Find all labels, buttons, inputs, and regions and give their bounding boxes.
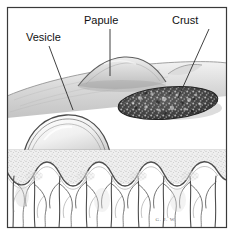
label-vesicle: Vesicle bbox=[26, 31, 61, 43]
artist-signature: G. J. W. bbox=[156, 217, 177, 222]
skin-lesion-illustration: G. J. W. Vesicle Papule Crust bbox=[0, 0, 234, 235]
label-crust: Crust bbox=[172, 14, 198, 26]
label-papule: Papule bbox=[84, 14, 118, 26]
illustration-canvas: G. J. W. Vesicle Papule Crust bbox=[0, 0, 234, 235]
